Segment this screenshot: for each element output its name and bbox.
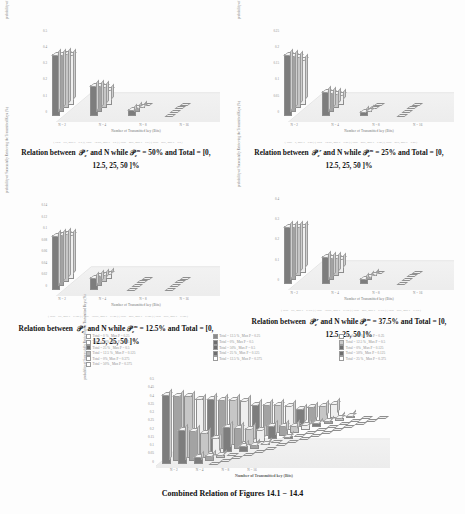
figure-caption: Relation between 𝒫er and N while 𝒫em = 5…: [16, 148, 216, 171]
y-tick-label: 0.45: [148, 386, 154, 389]
bar-side-face: [106, 80, 109, 104]
bar: [301, 424, 310, 430]
legend-item-label: Total = 50% , Max P = 0.125: [346, 351, 385, 355]
bar-side-face: [58, 229, 61, 286]
bar-side-face: [304, 403, 307, 423]
bar-side-face: [68, 47, 71, 104]
caption-mid: and N while: [90, 148, 128, 157]
plot-floor: [48, 30, 220, 122]
legend-column: Total = 12.5 % , Max P = 0.25Total = 0% …: [213, 334, 262, 368]
legend-item: Total = 50%, Max P = 0.25: [86, 340, 135, 345]
y-tick-label: 0.12: [41, 216, 47, 219]
plot-floor: [48, 204, 220, 296]
bar-side-face: [96, 79, 99, 112]
bar-side-face: [68, 227, 71, 278]
bar-side-face: [208, 427, 211, 454]
caption-mid: and N while: [323, 148, 361, 157]
y-axis-ticks: 0.50.40.30.20.10: [30, 30, 47, 114]
x-tick-label: N = 16: [413, 291, 422, 295]
y-axis-ticks: 0.40.30.20.10: [262, 198, 279, 282]
y-tick-label: 0: [152, 461, 154, 464]
legend-item: Total = 12.5 % , Max P = 0.375: [213, 356, 262, 361]
y-axis-label: probability of Successfully Retrieving t…: [6, 0, 10, 28]
y-axis-label: probability of Successfully Retrieving t…: [6, 98, 10, 202]
legend-item-label: Total = 25 % , Max P = 0.25: [346, 334, 385, 338]
caption-symbol-pe-m: 𝒫em: [363, 148, 374, 157]
bar: [322, 256, 330, 284]
bar: [239, 446, 248, 452]
x-tick-label: N = 16: [413, 123, 422, 127]
y-tick-label: 0.1: [275, 259, 279, 262]
y-tick-label: 0.5: [150, 378, 154, 381]
bar-side-face: [315, 401, 318, 420]
legend-item-label: Total = 0%, Max P = 0.375: [93, 357, 130, 361]
bar: [284, 226, 292, 284]
y-tick-label: 0: [277, 279, 279, 282]
bar: [216, 455, 225, 458]
bar-side-face: [290, 220, 293, 280]
bar: [223, 427, 232, 452]
y-tick-label: 0.1: [43, 95, 47, 98]
figure-micro-legend: ( Total = 0%, Max P = 0.375 ) ( Total = …: [246, 309, 456, 312]
y-tick-label: 0.25: [148, 419, 154, 422]
bar-side-face: [58, 48, 61, 112]
plot-area: probability of Successfully Retrieving t…: [8, 22, 224, 140]
caption-symbol-pe-m: 𝒫em: [130, 148, 141, 157]
x-tick-label: N = 8: [139, 123, 147, 127]
plot-area: probability of Successfully Retrieving t…: [8, 196, 224, 314]
legend-swatch-icon: [339, 340, 344, 345]
y-axis-ticks: 0.250.20.150.10.050: [262, 30, 279, 114]
y-axis-ticks: 0.140.120.10.080.060.040.020: [30, 204, 47, 288]
y-tick-label: 0.05: [273, 95, 279, 98]
plot-area: probability of Successfully Retrieving t…: [240, 190, 458, 308]
figure-14-4: probability of Successfully Retrieving t…: [240, 190, 458, 308]
x-tick-label: N = 16: [180, 123, 189, 127]
legend-item: Total = 12.5 % , Max P = 0.125: [86, 351, 135, 356]
bar-side-face: [219, 432, 222, 451]
bar-side-face: [185, 423, 188, 460]
x-axis-label: Number of Transmitted key (Bits): [48, 129, 224, 133]
y-axis-label: probability of Successfully Retrieving t…: [84, 294, 88, 380]
legend-item-label: Total = 12.5 % , Max P = 0.25: [219, 334, 260, 338]
legend-swatch-icon: [339, 351, 344, 356]
figure-micro-legend: ( Total = 0, Max P = 0.25 ) ( Total = 12…: [246, 141, 456, 144]
legend-swatch-icon: [213, 334, 218, 339]
figure-micro-legend: ( Total = 0%, Max P = 0.125 ) ( Total = …: [14, 315, 222, 318]
plot-floor: [280, 30, 454, 122]
bar: [90, 277, 98, 290]
bar-side-face: [73, 49, 76, 101]
x-tick-label: N = 16: [247, 468, 256, 472]
combined-caption: Combined Relation of Figures 14.1 − 14.4: [0, 489, 465, 498]
legend-item-label: Total = 25 % , Max P = 0.375: [346, 357, 386, 361]
y-tick-label: 0.3: [43, 62, 47, 65]
legend-item-label: Total = 50% , Max P = 0.375: [93, 362, 132, 366]
x-tick-label: N = 8: [372, 123, 380, 127]
legend-item-label: Total = 12.5 % , Max P = 0.375: [219, 357, 262, 361]
bar: [284, 54, 292, 116]
bar: [162, 394, 171, 464]
figure-14-3: probability of Successfully Retrieving t…: [8, 196, 224, 314]
legend-swatch-icon: [339, 345, 344, 350]
shared-legend: Total = 0 % , Max P = 0.25Total = 50%, M…: [86, 334, 386, 368]
bar: [261, 443, 270, 445]
x-tick-label: N = 4: [331, 291, 339, 295]
bar-side-face: [333, 251, 336, 276]
figure-14-2: probability of Successfully Retrieving t…: [240, 22, 458, 140]
caption-symbol-pe-r: 𝒫er: [308, 317, 319, 326]
figure-micro-legend: ( Total = 0%, Max P = 0.5 ) ( Total = 12…: [14, 141, 222, 144]
bar: [284, 436, 293, 439]
legend-item: Total = 50% , Max P = 0.125: [339, 351, 386, 356]
y-tick-label: 0: [277, 111, 279, 114]
caption-prefix: Relation between: [252, 317, 306, 326]
plot-floor: [156, 376, 390, 468]
y-tick-label: 0: [45, 285, 47, 288]
caption-symbol-pe-r: 𝒫er: [311, 148, 322, 157]
legend-swatch-icon: [213, 340, 218, 345]
bar-side-face: [295, 220, 298, 276]
x-tick-label: N = 2: [290, 123, 298, 127]
x-tick-label: N = 16: [180, 297, 189, 301]
y-tick-label: 0.25: [273, 30, 279, 33]
caption-mid: and N while: [87, 324, 125, 333]
x-axis-label: Number of Transmitted key (Bits): [280, 129, 458, 133]
plot-floor: [280, 198, 454, 290]
